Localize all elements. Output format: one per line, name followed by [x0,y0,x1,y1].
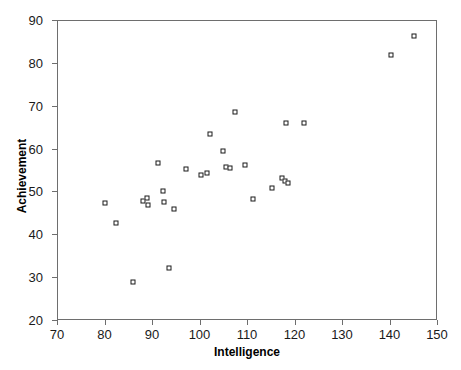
data-point [227,166,232,171]
data-point [102,201,107,206]
data-point [144,196,149,201]
data-point [155,161,160,166]
data-point [172,207,177,212]
y-tick-mark [52,191,57,192]
data-point [302,120,307,125]
y-tick-mark [52,106,57,107]
x-tick-mark [295,320,296,325]
data-point [412,34,417,39]
x-tick-label: 70 [37,328,77,341]
data-point [198,173,203,178]
x-tick-mark [247,320,248,325]
x-tick-label: 100 [180,328,220,341]
x-tick-mark [437,320,438,325]
data-point [130,280,135,285]
data-point [161,188,166,193]
data-point [283,120,288,125]
x-tick-label: 80 [85,328,125,341]
y-tick-label: 50 [9,185,43,198]
data-point [242,162,247,167]
scatter-plot-figure: Intelligence Achievement 203040506070809… [0,0,461,370]
x-tick-mark [342,320,343,325]
x-tick-mark [200,320,201,325]
y-tick-mark [52,277,57,278]
y-tick-label: 90 [9,14,43,27]
data-point [270,186,275,191]
data-point [146,203,151,208]
y-tick-label: 30 [9,271,43,284]
data-point [207,132,212,137]
x-tick-mark [105,320,106,325]
data-point [205,170,210,175]
x-tick-label: 110 [227,328,267,341]
x-tick-mark [57,320,58,325]
y-tick-label: 80 [9,56,43,69]
data-point [183,167,188,172]
data-point [162,199,167,204]
x-tick-label: 120 [275,328,315,341]
x-tick-mark [152,320,153,325]
x-axis-title: Intelligence [57,346,437,358]
y-tick-label: 20 [9,314,43,327]
data-point [220,149,225,154]
y-tick-mark [52,20,57,21]
data-point [250,197,255,202]
x-tick-label: 90 [132,328,172,341]
y-tick-label: 70 [9,99,43,112]
x-tick-mark [390,320,391,325]
data-point [113,221,118,226]
data-point [232,110,237,115]
y-axis-title: Achievement [16,106,28,246]
data-point [167,265,172,270]
data-point [389,53,394,58]
data-point [285,180,290,185]
y-tick-mark [52,149,57,150]
y-tick-label: 60 [9,142,43,155]
x-tick-label: 150 [417,328,457,341]
y-tick-mark [52,234,57,235]
y-tick-mark [52,63,57,64]
plot-area [57,20,437,320]
x-tick-label: 130 [322,328,362,341]
y-tick-label: 40 [9,228,43,241]
x-tick-label: 140 [370,328,410,341]
